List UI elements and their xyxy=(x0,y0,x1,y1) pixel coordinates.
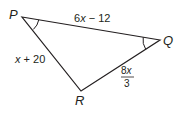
vertex-label-r: R xyxy=(75,93,84,108)
side-label-pq: 6x − 12 xyxy=(74,12,110,24)
vertex-label-p: P xyxy=(9,7,18,22)
vertex-label-q: Q xyxy=(163,33,173,48)
fraction-numerator: 8x xyxy=(121,65,133,76)
angle-mark-q xyxy=(143,37,146,49)
fraction-denominator: 3 xyxy=(124,78,130,89)
angle-mark-p xyxy=(33,20,38,30)
side-label-qr: 8x 3 xyxy=(121,65,134,89)
side-label-pr: x + 20 xyxy=(14,53,45,65)
triangle-diagram: P Q R 6x − 12 x + 20 8x 3 xyxy=(0,0,183,114)
